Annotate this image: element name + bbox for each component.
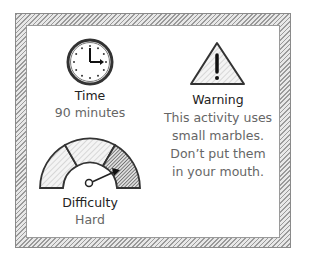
warning-title: Warning [192, 92, 243, 107]
difficulty-gauge-icon [40, 138, 140, 188]
clock-icon [68, 40, 112, 84]
difficulty-title: Difficulty [62, 195, 118, 210]
warning-line: Don’t put them [170, 145, 265, 163]
warning-line: in your mouth. [172, 163, 264, 181]
difficulty-value: Hard [75, 211, 105, 229]
warning-line: small marbles. [172, 127, 264, 145]
time-title: Time [75, 88, 106, 103]
time-value: 90 minutes [55, 104, 125, 122]
warning-line: This activity uses [164, 109, 272, 127]
warning-triangle-icon [191, 43, 244, 84]
